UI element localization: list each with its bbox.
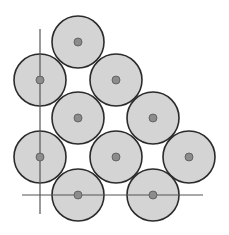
- center-dot-3: [112, 76, 120, 84]
- center-dot-8: [185, 153, 193, 161]
- center-dot-7: [112, 153, 120, 161]
- center-dot-6: [36, 153, 44, 161]
- center-dot-9: [74, 191, 82, 199]
- center-dot-2: [36, 76, 44, 84]
- center-dot-5: [149, 114, 157, 122]
- circle-packing-diagram: [0, 0, 229, 235]
- center-dot-1: [74, 38, 82, 46]
- center-dot-4: [74, 114, 82, 122]
- circles-group: [14, 16, 215, 221]
- center-dot-10: [149, 191, 157, 199]
